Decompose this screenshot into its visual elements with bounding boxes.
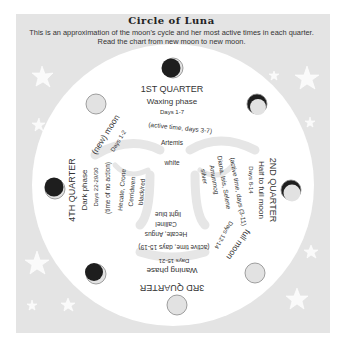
second-quarter-days: Days 8-14	[248, 166, 254, 194]
fourth-quarter-days: Days 22-29/30	[93, 167, 99, 207]
star-icon	[25, 251, 49, 274]
star-icon	[32, 118, 45, 131]
third-quarter-color: light blue	[155, 210, 181, 218]
first-quarter-heading: 1ST QUARTER	[141, 84, 204, 94]
first-quarter-deity: Artemis	[161, 139, 184, 146]
fourth-quarter-active: (time of no action)	[104, 162, 112, 214]
star-icon	[305, 117, 315, 127]
third-quarter-deity: Hecate, Angus	[144, 230, 187, 238]
star-icon	[269, 71, 279, 80]
third-quarter-active: (active time, days 15-19)	[138, 243, 209, 251]
third-quarter-days: Days 15-21	[158, 258, 189, 264]
third-quarter-phase: Waning phase	[146, 266, 197, 275]
fourth-quarter-phase: Dark phase	[80, 169, 89, 210]
new-moon-icon	[162, 58, 184, 78]
full-moon-icon	[167, 295, 187, 315]
star-icon	[295, 66, 319, 89]
first-quarter-days: Days 1-7	[160, 109, 185, 115]
luna-circle-diagram: 1ST QUARTER Waxing phase Days 1-7 (activ…	[0, 0, 343, 340]
first-quarter-color: white	[163, 159, 180, 166]
star-icon	[61, 298, 75, 311]
fourth-quarter-heading: 4TH QUARTER	[67, 158, 77, 222]
star-icon	[286, 288, 308, 309]
second-quarter-phase: Half to full moon	[257, 161, 266, 219]
first-quarter-phase: Waxing phase	[147, 97, 198, 106]
star-icon	[304, 245, 318, 258]
star-icon	[27, 300, 37, 310]
full-moon-icon	[245, 263, 265, 283]
star-icon	[32, 66, 53, 87]
third-quarter-heading: 3RD QUARTER	[139, 283, 204, 293]
full-moon-icon	[86, 94, 106, 114]
third-quarter-deity-2: Callinel	[155, 221, 177, 228]
second-quarter-heading: 2ND QUARTER	[268, 158, 278, 223]
